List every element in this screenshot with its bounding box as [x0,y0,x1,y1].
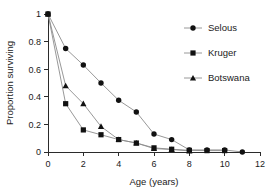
legend-marker-selous [190,25,195,30]
y-tick-label: 0 [36,147,41,157]
chart-canvas: 02468101200.20.40.60.81Age (years)Propor… [0,0,267,190]
data-point-selous [240,149,245,154]
y-tick-label: 0.6 [28,65,41,75]
data-point-selous [81,62,86,67]
data-point-kruger [81,127,86,132]
legend-label-kruger: Kruger [208,47,237,58]
series-line-kruger [48,14,225,151]
x-tick-label: 0 [45,159,50,169]
data-point-kruger [222,148,227,153]
x-tick-label: 12 [255,159,265,169]
data-point-selous [134,109,139,114]
x-tick-label: 6 [151,159,156,169]
x-tick-label: 10 [220,159,230,169]
data-point-selous [116,98,121,103]
data-point-selous [63,46,68,51]
data-point-kruger [98,132,103,137]
x-tick-label: 4 [116,159,121,169]
y-tick-label: 1 [36,9,41,19]
data-point-selous [151,131,156,136]
data-point-kruger [63,101,68,106]
data-point-botswana [63,83,69,89]
y-tick-label: 0.8 [28,37,41,47]
y-tick-label: 0.4 [28,92,41,102]
x-tick-label: 2 [81,159,86,169]
series-line-botswana [48,14,189,151]
survival-curve-figure: 02468101200.20.40.60.81Age (years)Propor… [0,0,267,190]
x-tick-label: 8 [187,159,192,169]
data-point-selous [98,80,103,85]
legend-marker-kruger [190,50,195,55]
data-point-selous [169,137,174,142]
legend-label-selous: Selous [208,22,237,33]
y-axis-title: Proportion surviving [4,41,15,125]
x-axis-title: Age (years) [129,176,178,187]
y-tick-label: 0.2 [28,120,41,130]
data-point-kruger [204,148,209,153]
legend-label-botswana: Botswana [208,72,250,83]
